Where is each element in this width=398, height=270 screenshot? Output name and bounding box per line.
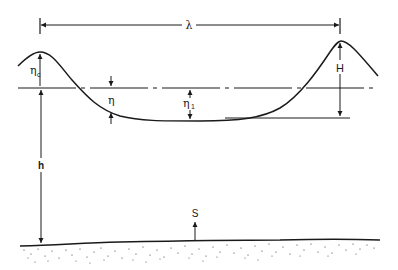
- seabed: [20, 239, 380, 263]
- crest-elevation-dimension: η c: [30, 54, 41, 86]
- trough-elevation-dimension: η 1: [183, 90, 195, 119]
- wavelength-label: λ: [186, 19, 193, 32]
- seabed-marker: S: [192, 208, 199, 241]
- trough-elevation-subscript: 1: [191, 103, 195, 110]
- crest-elevation-label: η: [30, 64, 37, 77]
- water-depth-dimension: h: [38, 90, 44, 243]
- surface-elevation-label: η: [108, 94, 115, 107]
- trough-elevation-label: η: [183, 97, 190, 110]
- wave-surface-profile: [18, 41, 378, 121]
- surface-elevation-dimension: η: [108, 76, 115, 124]
- wave-diagram: λ η c η η 1 H h: [0, 0, 398, 270]
- water-depth-label: h: [38, 160, 44, 171]
- seabed-label: S: [192, 208, 199, 219]
- wavelength-dimension: λ: [40, 18, 340, 34]
- crest-elevation-subscript: c: [37, 71, 41, 78]
- sediment-stipple: [23, 243, 374, 263]
- wave-height-label: H: [336, 62, 344, 74]
- wave-height-dimension: H: [336, 43, 344, 116]
